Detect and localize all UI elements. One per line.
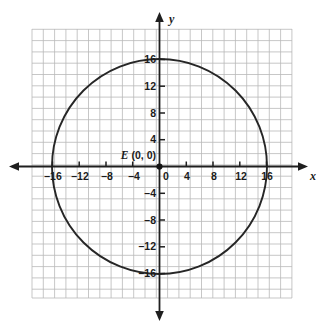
center-point-label: E(0, 0) <box>120 149 156 161</box>
y-axis-arrow-up <box>155 12 164 22</box>
y-tick-label: –8 <box>144 214 156 226</box>
x-tick-label: 12 <box>235 170 247 182</box>
y-tick-label: –12 <box>138 240 156 252</box>
x-tick-label: 8 <box>211 170 217 182</box>
y-tick-label: 16 <box>144 53 156 65</box>
y-axis-letter: y <box>167 12 175 26</box>
x-tick-label: –16 <box>44 170 62 182</box>
x-axis-letter: x <box>309 169 316 183</box>
x-tick-label: 4 <box>184 170 190 182</box>
x-tick-label: 16 <box>261 170 273 182</box>
origin-label: 0 <box>163 170 169 182</box>
center-point-letter: E <box>120 149 129 161</box>
coordinate-plane-graph: y x –16 –12 –8 –4 4 8 12 16 0 16 12 8 4 … <box>0 0 328 329</box>
x-tick-label: –8 <box>101 170 113 182</box>
x-tick-label: –4 <box>128 170 140 182</box>
x-axis-arrow-right <box>298 162 308 171</box>
x-axis-arrow-left <box>9 162 19 171</box>
center-point-marker <box>156 163 162 169</box>
x-tick-label: –12 <box>71 170 89 182</box>
center-point-coords: (0, 0) <box>131 149 156 161</box>
y-tick-label: 4 <box>150 133 156 145</box>
y-tick-label: –16 <box>138 267 156 279</box>
y-axis-arrow-down <box>155 311 164 321</box>
figure-canvas: y x –16 –12 –8 –4 4 8 12 16 0 16 12 8 4 … <box>0 0 328 329</box>
grid-lines <box>32 29 292 298</box>
y-tick-label: 12 <box>144 80 156 92</box>
y-tick-label: 8 <box>150 107 156 119</box>
y-tick-label: –4 <box>144 187 156 199</box>
